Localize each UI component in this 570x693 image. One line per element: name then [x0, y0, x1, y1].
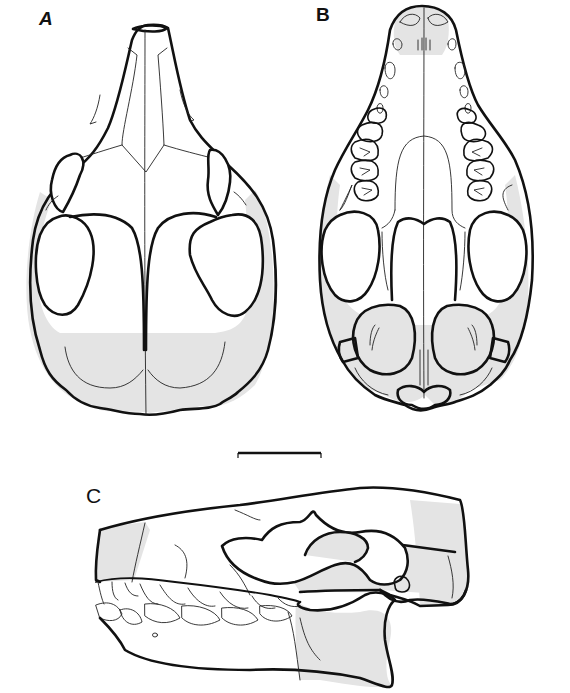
scale-bar — [238, 453, 321, 458]
upper-molars-left — [351, 108, 386, 201]
skull-lateral-view-c — [96, 488, 469, 688]
skull-figure — [0, 0, 570, 693]
skull-dorsal-view-a — [26, 25, 275, 415]
skull-ventral-view-b — [319, 6, 533, 410]
